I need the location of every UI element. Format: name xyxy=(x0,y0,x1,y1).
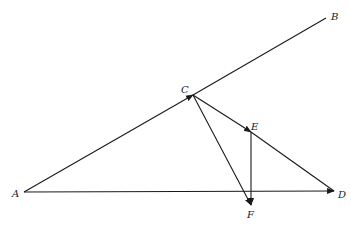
segment-ac-vector xyxy=(24,95,193,192)
segment-ad-vector xyxy=(24,191,334,192)
segment-ed-line xyxy=(251,132,334,191)
point-label-a: A xyxy=(11,188,19,199)
point-label-c: C xyxy=(181,84,189,95)
segments-group xyxy=(24,18,334,205)
point-label-b: B xyxy=(330,11,338,22)
point-label-d: D xyxy=(337,189,346,200)
labels-group: ABCDEF xyxy=(11,11,346,220)
segment-cf-vector xyxy=(193,95,251,205)
point-label-e: E xyxy=(250,121,259,132)
segment-cb-line xyxy=(193,18,326,95)
geometry-diagram: ABCDEF xyxy=(0,0,351,227)
segment-ce-vector xyxy=(193,95,251,132)
point-label-f: F xyxy=(246,209,255,220)
